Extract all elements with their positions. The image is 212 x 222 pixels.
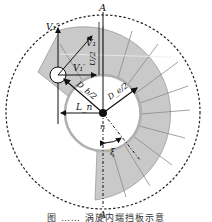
xi-arc bbox=[105, 138, 121, 143]
figure-caption: 图 …… 涡旋内端挡板示意 bbox=[0, 211, 212, 222]
label-n: n bbox=[100, 122, 105, 131]
label-u-half: U/2 bbox=[88, 51, 97, 66]
blade-ring bbox=[38, 26, 190, 200]
label-v1-double-prime: V₁″ bbox=[46, 22, 60, 32]
label-ln: L_n bbox=[75, 102, 92, 113]
center-hub bbox=[99, 109, 107, 117]
label-de-half: D_e/2 bbox=[105, 81, 130, 102]
label-v1-prime: V₁′ bbox=[73, 63, 85, 73]
turbine-geometry-diagram: A A V₁″ V₁ V₁′ U/2 D_b/2 D_e/2 L_n n ξ bbox=[0, 0, 212, 222]
label-top-a: A bbox=[98, 2, 106, 13]
label-v1: V₁ bbox=[86, 38, 96, 48]
